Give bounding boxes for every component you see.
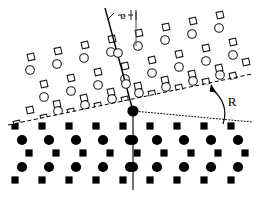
substrate-filled-square-markers xyxy=(11,122,248,183)
open-circle-marker xyxy=(134,42,143,51)
open-square-marker xyxy=(189,17,197,25)
filled-square-marker xyxy=(119,176,126,183)
filled-square-marker xyxy=(227,176,234,183)
open-square-marker xyxy=(242,58,250,66)
filled-square-marker xyxy=(38,122,45,129)
filled-square-marker xyxy=(106,149,113,156)
dotted-reference-line xyxy=(133,111,252,122)
filled-square-marker xyxy=(119,122,126,129)
filled-circle-marker xyxy=(98,162,108,172)
open-square-marker xyxy=(148,90,156,98)
open-square-marker xyxy=(175,50,183,58)
open-circle-marker xyxy=(40,93,49,102)
filled-circle-marker xyxy=(179,162,189,172)
open-square-marker xyxy=(26,106,34,114)
filled-square-marker xyxy=(146,176,153,183)
open-circle-marker xyxy=(215,24,224,33)
open-square-marker xyxy=(121,62,129,70)
open-square-marker xyxy=(67,74,75,82)
filled-circle-marker xyxy=(44,135,54,145)
rotation-arrowhead-icon xyxy=(210,84,217,92)
open-circle-marker xyxy=(188,30,197,39)
open-circle-marker xyxy=(108,95,117,104)
open-square-marker xyxy=(149,110,157,118)
open-circle-marker xyxy=(162,83,171,92)
open-circle-marker xyxy=(26,66,35,75)
open-square-marker xyxy=(27,53,35,61)
open-circle-marker xyxy=(202,57,211,66)
open-square-marker xyxy=(54,47,62,55)
origin-node-marker xyxy=(127,105,138,116)
filled-circle-marker xyxy=(17,162,27,172)
filled-square-marker xyxy=(241,149,248,156)
filled-square-marker xyxy=(133,149,140,156)
open-circle-marker xyxy=(148,69,157,78)
filled-square-marker xyxy=(92,176,99,183)
filled-square-marker xyxy=(79,149,86,156)
filled-circle-marker xyxy=(128,162,138,172)
filled-square-marker xyxy=(187,149,194,156)
filled-circle-marker xyxy=(17,135,27,145)
origin-marker xyxy=(127,105,138,116)
open-circle-marker xyxy=(189,77,198,86)
open-square-marker xyxy=(229,38,237,46)
tilt-angle-label: ø xyxy=(120,9,126,21)
filled-circle-marker xyxy=(98,135,108,145)
open-square-marker xyxy=(175,84,183,92)
open-square-marker xyxy=(94,68,102,76)
figure-canvas: ø R xyxy=(0,0,259,198)
open-square-marker xyxy=(148,56,156,64)
filled-square-marker xyxy=(92,122,99,129)
open-square-marker xyxy=(176,104,184,112)
open-circle-marker xyxy=(229,51,238,60)
filled-square-marker xyxy=(173,122,180,129)
filled-circle-marker xyxy=(152,162,162,172)
open-square-marker xyxy=(216,11,224,19)
filled-square-marker xyxy=(25,149,32,156)
filled-circle-marker xyxy=(128,135,138,145)
filled-square-marker xyxy=(11,176,18,183)
open-circle-marker xyxy=(122,80,131,89)
filled-circle-marker xyxy=(71,162,81,172)
filled-circle-marker xyxy=(71,135,81,145)
open-circle-marker xyxy=(161,36,170,45)
lower-lattice-group xyxy=(11,122,248,183)
filled-square-marker xyxy=(146,122,153,129)
filled-square-marker xyxy=(214,149,221,156)
filled-circle-marker xyxy=(206,135,216,145)
filled-circle-marker xyxy=(233,135,243,145)
filled-square-marker xyxy=(52,149,59,156)
filled-square-marker xyxy=(160,149,167,156)
open-square-marker xyxy=(202,78,210,86)
filled-square-marker xyxy=(227,122,234,129)
filled-square-marker xyxy=(200,176,207,183)
filled-square-marker xyxy=(65,122,72,129)
open-square-marker xyxy=(162,23,170,31)
open-circle-marker xyxy=(114,49,123,58)
filled-square-marker xyxy=(38,176,45,183)
filled-circle-marker xyxy=(152,135,162,145)
open-circle-marker xyxy=(80,54,89,63)
open-square-marker xyxy=(81,41,89,49)
open-circle-marker xyxy=(216,71,225,80)
filled-circle-marker xyxy=(179,135,189,145)
rotation-label: R xyxy=(228,94,237,109)
open-square-marker xyxy=(203,98,211,106)
open-circle-marker xyxy=(135,89,144,98)
filled-circle-marker xyxy=(44,162,54,172)
open-circle-marker xyxy=(67,87,76,96)
open-circle-marker xyxy=(175,63,184,72)
filled-square-marker xyxy=(173,176,180,183)
open-square-marker xyxy=(40,80,48,88)
filled-circle-marker xyxy=(233,162,243,172)
filled-circle-marker xyxy=(206,162,216,172)
lattice-schematic-svg: ø R xyxy=(0,0,259,198)
open-square-marker xyxy=(202,44,210,52)
filled-square-marker xyxy=(200,122,207,129)
open-circle-marker xyxy=(53,60,62,69)
filled-square-marker xyxy=(65,176,72,183)
open-circle-marker xyxy=(94,81,103,90)
